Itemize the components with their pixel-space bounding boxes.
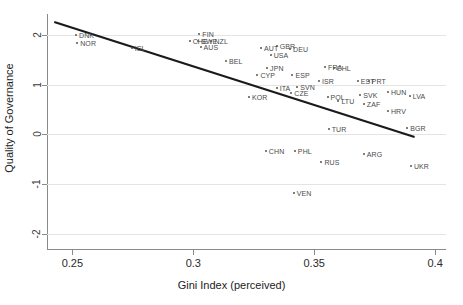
x-tick xyxy=(193,250,194,255)
data-point-label: DNK xyxy=(79,32,94,39)
data-point xyxy=(200,46,202,48)
data-point-label: ZAF xyxy=(367,100,381,107)
data-point xyxy=(270,54,272,56)
data-point-label: KOR xyxy=(252,93,267,100)
data-point xyxy=(409,95,411,97)
data-point-label: RUS xyxy=(324,159,339,166)
x-axis-title: Gini Index (perceived) xyxy=(0,279,463,291)
data-point xyxy=(291,74,293,76)
x-tick-label: 0.25 xyxy=(62,257,83,269)
data-point-label: TUR xyxy=(332,126,347,133)
data-point-label: ITA xyxy=(280,85,291,92)
x-tick xyxy=(435,250,436,255)
data-point xyxy=(276,87,278,89)
data-point xyxy=(198,33,200,35)
chart-figure: Quality of Governance -2-1012 0.250.30.3… xyxy=(0,0,463,305)
y-tick-label: -2 xyxy=(31,230,42,239)
data-point xyxy=(296,86,298,88)
data-point-label: DEU xyxy=(293,45,308,52)
data-point xyxy=(363,153,365,155)
data-point-label: CZE xyxy=(294,89,308,96)
data-point-label: USA xyxy=(274,51,289,58)
y-axis-title: Quality of Governance xyxy=(2,0,16,236)
data-point xyxy=(324,66,326,68)
y-tick-label: 2 xyxy=(33,32,44,38)
data-point-label: CHN xyxy=(269,148,284,155)
data-point xyxy=(248,96,250,98)
data-point xyxy=(327,96,329,98)
data-point xyxy=(387,110,389,112)
data-point-label: ESP xyxy=(295,72,309,79)
regression-line xyxy=(47,14,446,250)
data-point xyxy=(75,34,77,36)
data-point-label: BGR xyxy=(410,124,425,131)
data-point-label: NOR xyxy=(80,40,96,47)
data-point-label: CYP xyxy=(260,71,275,78)
data-point xyxy=(357,80,359,82)
data-point-label: ISR xyxy=(322,78,334,85)
data-point-label: LVA xyxy=(413,93,426,100)
data-point-label: VEN xyxy=(297,190,312,197)
x-tick-label: 0.35 xyxy=(303,257,324,269)
data-point xyxy=(260,47,262,49)
data-point xyxy=(197,40,199,42)
y-tick-label: 1 xyxy=(33,82,44,88)
data-point-label: PRT xyxy=(372,78,386,85)
plot-area: -2-1012 0.250.30.350.4 DNKNORISLFINCHESW… xyxy=(47,14,446,250)
data-point xyxy=(318,80,320,82)
data-point-label: ISL xyxy=(135,45,146,52)
y-tick-label: 0 xyxy=(33,132,44,138)
data-point-label: HRV xyxy=(391,107,406,114)
data-point xyxy=(337,100,339,102)
data-point-label: ARG xyxy=(367,151,382,158)
data-point xyxy=(276,45,278,47)
data-point xyxy=(294,150,296,152)
data-point xyxy=(289,48,291,50)
data-point xyxy=(189,40,191,42)
data-point xyxy=(333,67,335,69)
data-point-label: BEL xyxy=(229,58,243,65)
data-point xyxy=(359,94,361,96)
x-tick-label: 0.3 xyxy=(186,257,201,269)
x-tick xyxy=(72,250,73,255)
x-tick xyxy=(314,250,315,255)
data-point-label: LTU xyxy=(341,97,354,104)
x-axis-title-text: Gini Index (perceived) xyxy=(178,279,286,291)
data-point-label: CHL xyxy=(337,64,351,71)
data-point xyxy=(368,80,370,82)
data-point-label: UKR xyxy=(414,162,429,169)
data-point-label: HUN xyxy=(391,89,406,96)
data-point xyxy=(410,165,412,167)
data-point xyxy=(266,67,268,69)
data-point-label: SVK xyxy=(363,92,377,99)
data-point xyxy=(293,192,295,194)
data-point xyxy=(225,60,227,62)
data-point xyxy=(265,150,267,152)
x-tick-label: 0.4 xyxy=(427,257,442,269)
y-axis-title-text: Quality of Governance xyxy=(3,63,15,172)
data-point xyxy=(320,161,322,163)
data-point xyxy=(328,128,330,130)
data-point xyxy=(387,91,389,93)
data-point xyxy=(256,74,258,76)
data-point-label: AUS xyxy=(204,44,219,51)
data-point xyxy=(290,92,292,94)
data-point xyxy=(363,103,365,105)
data-point xyxy=(131,47,133,49)
data-point-label: PHL xyxy=(298,147,312,154)
y-tick-label: -1 xyxy=(31,180,42,189)
data-point xyxy=(406,127,408,129)
data-point xyxy=(76,42,78,44)
data-point xyxy=(210,40,212,42)
